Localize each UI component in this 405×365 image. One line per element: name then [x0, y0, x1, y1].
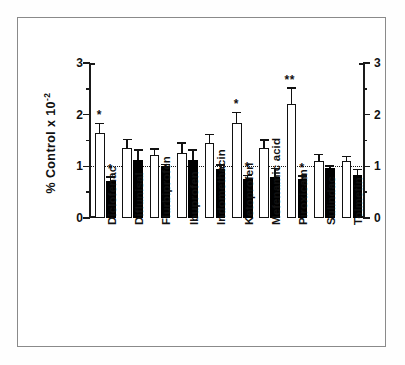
tick-right-1.5	[363, 140, 367, 142]
error-bar	[346, 157, 347, 161]
error-bar-cap	[353, 169, 362, 170]
y-tick-label-right-1: 1	[374, 160, 394, 172]
bar-open	[95, 133, 105, 218]
x-axis-label: Diclofenac	[106, 166, 118, 225]
bar-open	[232, 123, 242, 218]
bar-open	[150, 155, 160, 218]
tick-right-1	[363, 166, 370, 168]
bar-open	[342, 161, 352, 218]
x-axis-label: Ibuprofen	[188, 171, 200, 225]
error-bar-cap	[150, 148, 159, 149]
error-bar	[209, 135, 210, 142]
error-bar	[357, 170, 358, 175]
tick-left-1.5	[86, 140, 90, 142]
error-bar	[137, 151, 138, 160]
y-axis-title-text: % Control x 10	[44, 101, 58, 193]
error-bar	[263, 141, 264, 148]
error-bar-cap	[260, 139, 269, 140]
bar-open	[287, 104, 297, 218]
tick-left-0.5	[86, 191, 90, 193]
error-bar	[192, 151, 193, 160]
x-axis-label: Mefenamic acid	[270, 138, 282, 225]
x-axis-label: Flurbiprofen	[160, 156, 172, 225]
significance-marker: *	[234, 98, 239, 110]
error-bar-cap	[287, 87, 296, 88]
x-axis-label: Ketoprofen	[243, 163, 255, 225]
error-bar-cap	[95, 123, 104, 124]
error-bar	[126, 140, 127, 148]
y-tick-label-right-3: 3	[374, 57, 394, 69]
figure: % Control x 10-2 00112233 ******* Diclof…	[0, 0, 405, 365]
x-axis-label: Indomethacin	[215, 149, 227, 225]
y-tick-label-left-2: 2	[63, 109, 83, 121]
y-tick-label-right-2: 2	[374, 109, 394, 121]
tick-left-1	[83, 166, 90, 168]
error-bar-cap	[123, 139, 132, 140]
y-tick-label-right-0: 0	[374, 212, 394, 224]
x-axis-label: Piroxicam	[297, 169, 309, 225]
y-axis-title-exponent: -2	[42, 93, 52, 101]
error-bar	[329, 167, 330, 169]
y-tick-label-left-1: 1	[63, 160, 83, 172]
x-axis-label: Diflunisal	[133, 172, 145, 225]
bar-open	[122, 148, 132, 218]
y-tick-label-left-3: 3	[63, 57, 83, 69]
x-axis-label: Sulindac	[325, 176, 337, 225]
error-bar	[154, 150, 155, 156]
error-bar-cap	[134, 149, 143, 150]
bar-open	[205, 143, 215, 218]
error-bar	[181, 144, 182, 153]
y-axis-title: % Control x 10-2	[38, 68, 62, 218]
error-bar-cap	[177, 142, 186, 143]
significance-marker: *	[97, 109, 102, 121]
error-bar-cap	[325, 165, 334, 166]
tick-left-2	[83, 114, 90, 116]
significance-marker: **	[285, 74, 295, 86]
plot-area: 00112233 ******* DiclofenacDiflunisalFlu…	[90, 63, 364, 218]
error-bar-cap	[342, 156, 351, 157]
tick-right-2.5	[363, 88, 367, 90]
error-bar-cap	[314, 154, 323, 155]
error-bar-cap	[188, 149, 197, 150]
error-bar-cap	[205, 134, 214, 135]
y-tick-label-left-0: 0	[63, 212, 83, 224]
error-bar-cap	[232, 112, 241, 113]
error-bar	[236, 113, 237, 123]
x-axis-label: Tolmetin	[352, 177, 364, 225]
tick-left-2.5	[86, 88, 90, 90]
error-bar	[318, 155, 319, 161]
bar-open	[314, 161, 324, 218]
bar-open	[177, 153, 187, 218]
figure-frame: % Control x 10-2 00112233 ******* Diclof…	[17, 17, 386, 347]
error-bar	[291, 89, 292, 105]
error-bar	[99, 124, 100, 133]
tick-right-2	[363, 114, 370, 116]
bar-open	[259, 148, 269, 218]
